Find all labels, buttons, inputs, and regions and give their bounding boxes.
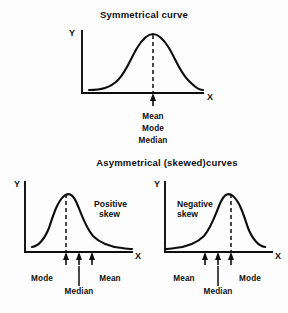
negative-skew-label-line2: skew — [177, 209, 198, 219]
positive-skew-y-axis-label: Y — [14, 179, 20, 189]
negative-skew-chart: Y X Negative skew Mean Median Mode — [154, 179, 281, 296]
positive-skew-chart: Y X Positive skew Mode Median — [14, 179, 141, 296]
symmetrical-x-axis-label: X — [207, 92, 213, 102]
positive-skew-label-line1: Positive — [94, 199, 127, 209]
symmetrical-stat-label-mean: Mean — [142, 112, 163, 121]
negative-skew-label-line1: Negative — [177, 199, 213, 209]
positive-skew-stat-label-mean: Mean — [99, 274, 120, 283]
symmetrical-bell-curve — [89, 34, 203, 90]
positive-skew-stat-label-median: Median — [65, 287, 94, 296]
negative-skew-stat-label-median: Median — [204, 287, 233, 296]
symmetrical-chart: Symmetrical curve Y X Mean Mode Median — [69, 9, 213, 145]
positive-skew-median-arrow — [76, 252, 82, 265]
negative-skew-x-axis-label: X — [275, 251, 281, 261]
statistics-skewness-figure: Symmetrical curve Y X Mean Mode Median A… — [0, 0, 288, 313]
positive-skew-label-line2: skew — [99, 209, 120, 219]
positive-skew-stat-label-mode: Mode — [31, 274, 53, 283]
negative-skew-mean-arrow — [202, 252, 208, 265]
positive-skew-x-axis-label: X — [135, 251, 141, 261]
symmetrical-y-axis-label: Y — [69, 28, 75, 38]
symmetrical-stat-label-median: Median — [139, 136, 168, 145]
symmetrical-chart-title: Symmetrical curve — [100, 9, 188, 20]
negative-skew-median-arrow — [215, 252, 221, 265]
figure-canvas: Symmetrical curve Y X Mean Mode Median A… — [0, 0, 288, 313]
negative-skew-mode-arrow — [228, 252, 234, 265]
asymmetrical-section-title: Asymmetrical (skewed)curves — [96, 157, 238, 168]
negative-skew-stat-label-mode: Mode — [239, 274, 261, 283]
positive-skew-mean-arrow — [89, 252, 95, 265]
symmetrical-stat-label-mode: Mode — [142, 124, 164, 133]
symmetrical-center-arrow — [150, 93, 156, 106]
negative-skew-y-axis-label: Y — [154, 179, 160, 189]
positive-skew-mode-arrow — [63, 252, 69, 265]
negative-skew-stat-label-mean: Mean — [173, 274, 194, 283]
